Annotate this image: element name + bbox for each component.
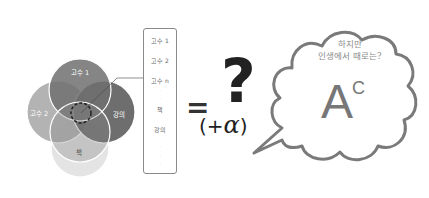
list-ellipsis-dot: · — [144, 144, 176, 149]
venn-label-book: 책 — [76, 149, 82, 157]
plus-alpha-open: (+ — [199, 114, 224, 138]
question-mark-icon: ? — [221, 51, 256, 111]
list-ellipsis-dot: · — [144, 153, 176, 158]
grade-superscript: C — [352, 78, 365, 98]
resource-list-box: 고수 1 고수 2 고수 n · · 책 강의 · · · — [143, 28, 177, 174]
plus-alpha-close: ) — [240, 114, 248, 138]
list-item-expert-n: 고수 n — [144, 77, 176, 84]
plus-alpha: (+α) — [199, 113, 248, 138]
grade-letter: A — [321, 77, 353, 127]
list-item-expert1: 고수 1 — [144, 37, 176, 44]
bubble-line-2: 인생에서 때로는? — [300, 50, 400, 62]
list-item-lecture: 강의 — [144, 126, 176, 133]
venn-label-lecture: 강의 — [113, 111, 125, 119]
list-item-expert2: 고수 2 — [144, 57, 176, 64]
list-ellipsis-dot: · — [144, 96, 176, 101]
list-ellipsis-dot: · — [144, 88, 176, 93]
diagram-graphics — [0, 0, 429, 198]
venn-label-expert1: 고수 1 — [71, 69, 89, 77]
bubble-line-1: 하지만 — [300, 38, 400, 50]
list-ellipsis-dot: · — [144, 162, 176, 167]
bubble-text: 하지만 인생에서 때로는? — [300, 38, 400, 62]
list-item-book: 책 — [144, 106, 176, 113]
alpha-symbol: α — [224, 111, 240, 139]
venn-label-expert2: 고수 2 — [30, 110, 48, 118]
diagram-stage: 고수 1 고수 2 강의 책 고수 1 고수 2 고수 n · · 책 강의 ·… — [0, 0, 429, 198]
